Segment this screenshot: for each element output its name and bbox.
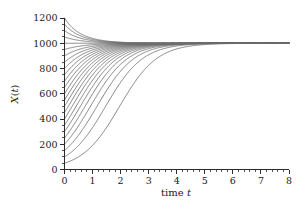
x-tick-label: 5: [202, 175, 208, 186]
y-tick-label: 400: [39, 113, 57, 124]
curve-series-group: [65, 18, 290, 163]
curve-line: [65, 43, 290, 119]
x-tick-label-group: 012345678: [61, 175, 292, 186]
y-tick-label-group: 020040060080010001200: [33, 12, 57, 175]
curve-line: [65, 31, 290, 44]
curve-line: [65, 43, 290, 138]
x-tick-label: 2: [118, 175, 124, 186]
chart-plot-area: 012345678 020040060080010001200 time t X…: [0, 0, 301, 208]
y-tick-label: 1000: [33, 38, 57, 49]
y-tick-group: [60, 18, 65, 170]
x-tick-label: 4: [174, 175, 180, 186]
x-tick-label: 7: [258, 175, 264, 186]
y-tick-label: 200: [39, 139, 57, 150]
curve-line: [65, 43, 290, 157]
chart-figure: 012345678 020040060080010001200 time t X…: [0, 0, 301, 208]
x-tick-label: 3: [146, 175, 152, 186]
y-tick-label: 800: [39, 63, 57, 74]
y-axis-title: X(t): [9, 84, 20, 104]
curve-line: [65, 18, 290, 43]
x-tick-label: 6: [230, 175, 236, 186]
curve-line: [65, 43, 290, 150]
x-tick-label: 1: [90, 175, 96, 186]
y-tick-label: 0: [51, 164, 57, 175]
x-tick-label: 8: [286, 175, 292, 186]
curve-line: [65, 24, 290, 43]
y-tick-label: 600: [39, 88, 57, 99]
x-tick-group: [65, 170, 290, 175]
x-tick-label: 0: [61, 175, 67, 186]
y-tick-label: 1200: [33, 12, 57, 23]
x-axis-title: time t: [161, 187, 192, 198]
curve-line: [65, 43, 290, 106]
